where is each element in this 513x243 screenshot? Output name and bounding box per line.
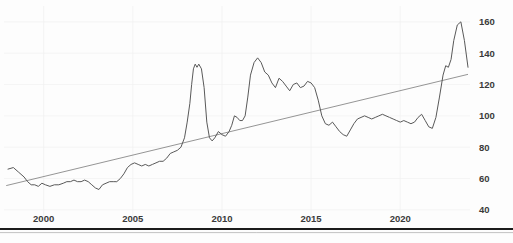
data-series-group [8, 22, 468, 190]
trendline-group [6, 74, 468, 185]
y-tick-label: 40 [479, 204, 490, 215]
gridlines-group [4, 6, 470, 217]
y-tick-label: 80 [479, 142, 490, 153]
y-tick-label: 100 [479, 110, 495, 121]
x-tick-label: 2020 [390, 213, 411, 224]
y-axis-tick-labels: 406080100120140160 [479, 16, 495, 215]
y-tick-label: 120 [479, 79, 495, 90]
x-tick-label: 2010 [211, 213, 232, 224]
y-tick-label: 60 [479, 173, 490, 184]
x-tick-label: 2005 [122, 213, 144, 224]
chart-container: 406080100120140160 20002005201020152020 [0, 0, 513, 243]
x-tick-label: 2015 [301, 213, 323, 224]
price-index-line [8, 22, 468, 190]
x-axis-tick-labels: 20002005201020152020 [33, 213, 411, 224]
x-tick-label: 2000 [33, 213, 54, 224]
linear-trendline [6, 74, 468, 185]
line-chart: 406080100120140160 20002005201020152020 [0, 0, 513, 243]
y-tick-label: 140 [479, 48, 495, 59]
y-tick-label: 160 [479, 16, 495, 27]
